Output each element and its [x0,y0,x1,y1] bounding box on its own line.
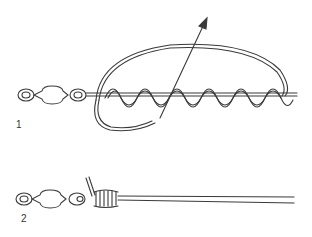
arrow-head-icon [199,18,207,29]
step-2-label: 2 [21,213,27,224]
swivel-barrel-icon [34,86,68,104]
tag-loop [96,44,288,100]
swivel-eye-icon [18,89,34,101]
step-1-illustration [18,18,297,131]
tightened-wraps [96,191,116,206]
knot-diagram [0,0,312,237]
step-2-illustration [16,177,294,208]
step-1-label: 1 [16,119,22,130]
